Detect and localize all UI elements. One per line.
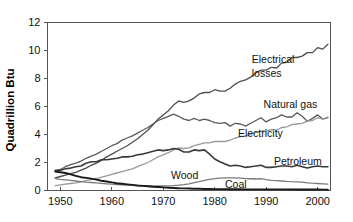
series-label-electricity: Electricity: [238, 127, 284, 139]
x-tick-label: 1970: [151, 195, 175, 207]
y-tick-label: 12: [28, 16, 40, 28]
x-tick-label: 2000: [305, 195, 329, 207]
y-tick-label: 4: [34, 128, 40, 140]
series-label-wood: Wood: [171, 169, 198, 181]
y-tick-label: 2: [34, 156, 40, 168]
energy-consumption-chart: 024681012 195019601970198019902000 Elect…: [0, 0, 353, 222]
y-tick-label: 0: [34, 184, 40, 196]
series-label-petroleum: Petroleum: [274, 155, 322, 167]
y-tick-label: 10: [28, 44, 40, 56]
x-tick-label: 1990: [254, 195, 278, 207]
x-tick-label: 1950: [48, 195, 72, 207]
series-label-losses: losses: [252, 67, 282, 79]
series-annotations: ElectricallossesNatural gasElectricityPe…: [171, 53, 322, 190]
series-label-electrical: Electrical: [252, 53, 295, 65]
y-tick-label: 6: [34, 100, 40, 112]
y-tick-label: 8: [34, 72, 40, 84]
series-lines: [55, 44, 328, 189]
y-axis-ticks: 024681012: [28, 16, 47, 196]
x-tick-label: 1980: [202, 195, 226, 207]
y-axis-title-group: Quadrillion Btu: [4, 68, 16, 151]
chart-canvas: 024681012 195019601970198019902000 Elect…: [0, 0, 353, 222]
series-label-coal: Coal: [225, 178, 247, 190]
x-tick-label: 1960: [100, 195, 124, 207]
y-axis-title: Quadrillion Btu: [4, 68, 16, 151]
series-label-natural-gas: Natural gas: [264, 98, 318, 110]
